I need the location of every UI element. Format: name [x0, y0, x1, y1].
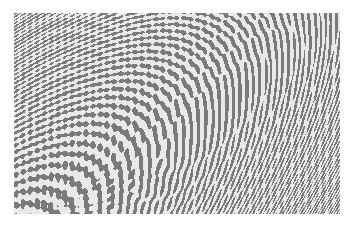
moire-pattern-image: [14, 13, 340, 214]
pattern-canvas: [14, 13, 340, 214]
